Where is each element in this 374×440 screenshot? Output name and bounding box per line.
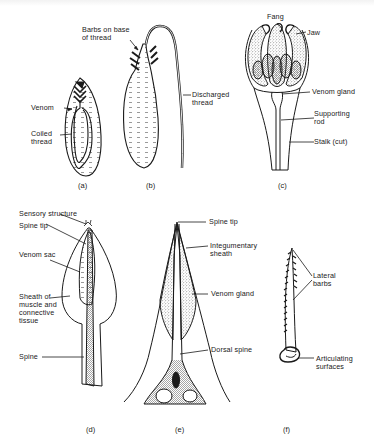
figure-drawings xyxy=(0,0,374,440)
label-venom-sac: Venom sac xyxy=(19,251,55,259)
label-lateral-barbs: Lateral barbs xyxy=(313,272,336,288)
label-integumentary-sheath: Integumentary sheath xyxy=(210,242,257,258)
label-spine: Spine xyxy=(19,353,38,361)
caption-d: (d) xyxy=(86,425,95,434)
label-fang: Fang xyxy=(267,13,284,21)
label-articulating-surfaces: Articulating surfaces xyxy=(316,355,353,371)
panel-a-drawing xyxy=(60,78,101,176)
caption-e: (e) xyxy=(175,425,184,434)
label-sensory-structure: Sensory structure xyxy=(19,210,77,218)
caption-c: (c) xyxy=(278,181,287,190)
caption-a: (a) xyxy=(78,181,87,190)
label-supporting-rod: Supporting rod xyxy=(314,110,350,126)
label-stalk-cut: Stalk (cut) xyxy=(314,138,347,146)
label-discharged-thread: Discharged thread xyxy=(192,91,229,107)
panel-b-drawing xyxy=(123,26,191,168)
caption-b: (b) xyxy=(146,181,155,190)
label-venom-gland-c: Venom gland xyxy=(312,88,355,96)
label-dorsal-spine: Dorsal spine xyxy=(211,346,252,354)
label-jaw: Jaw xyxy=(307,29,320,37)
label-spine-tip-d: Spine tip xyxy=(19,222,48,230)
label-spine-tip-e: Spine tip xyxy=(209,218,238,226)
label-coiled-thread: Coiled thread xyxy=(31,130,52,146)
label-sheath-of-muscle: Sheath of muscle and connective tissue xyxy=(19,293,57,325)
label-barbs-on-base: Barbs on base of thread xyxy=(82,26,130,42)
panel-f-drawing xyxy=(280,248,314,362)
label-venom: Venom xyxy=(31,104,54,112)
venom-apparatus-figure: Venom Coiled thread (a) Barbs on base of… xyxy=(0,0,374,440)
label-venom-gland-e: Venom gland xyxy=(211,290,254,298)
caption-f: (f) xyxy=(283,425,290,434)
panel-c-drawing xyxy=(245,24,314,170)
